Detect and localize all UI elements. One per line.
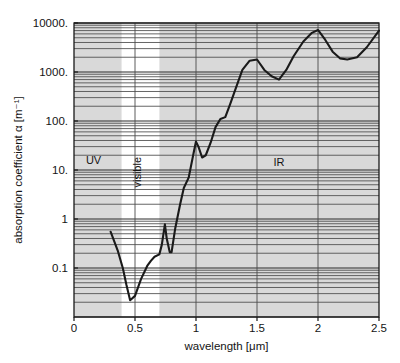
x-tick-label: 0 [71,322,77,334]
absorption-coefficient-chart: 00.511.522.5 0.1110.100.1000.10000. UVvi… [0,0,400,363]
y-tick-label: 1000. [39,66,68,78]
y-tick-label: 0.1 [52,262,68,274]
x-tick-label: 2.5 [371,322,387,334]
y-axis-label: absorption coefficient α [m⁻¹] [12,96,24,243]
x-axis-label: wavelength [μm] [184,340,269,352]
y-tick-label: 1 [62,213,68,225]
y-tick-label: 10. [52,164,68,176]
uv-region-label: UV [86,154,102,166]
x-tick-label: 0.5 [127,322,143,334]
y-tick-label: 10000. [33,17,68,29]
y-tick-label: 100. [46,115,68,127]
ir-region-label: IR [273,156,284,168]
x-tick-label: 1 [193,322,199,334]
visible-region-label: visible [131,157,143,188]
x-tick-label: 1.5 [249,322,265,334]
x-tick-label: 2 [315,322,321,334]
chart-figure: 00.511.522.5 0.1110.100.1000.10000. UVvi… [0,0,400,363]
